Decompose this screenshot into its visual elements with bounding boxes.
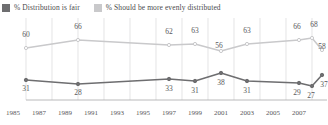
x-tick-1991: 1991 (84, 108, 98, 118)
value-label-dark-2007: 27 (307, 91, 315, 100)
value-label-dark-1990: 28 (74, 88, 82, 97)
x-tick-2005: 2005 (266, 108, 280, 118)
x-tick-2001: 2001 (214, 108, 228, 118)
value-label-light-2008: 58 (318, 42, 326, 51)
x-tick-1995: 1995 (136, 108, 150, 118)
value-label-light-1985: 60 (22, 30, 30, 39)
value-label-dark-2003: 31 (243, 86, 251, 95)
value-label-light-2007: 68 (310, 20, 318, 29)
legend-label-distribution-fair: % Distribution is fair (14, 4, 80, 12)
x-axis: 1985 1987 1989 1991 1993 1995 1997 1999 … (0, 108, 327, 122)
legend-item-distribution-fair: % Distribution is fair (2, 4, 80, 12)
x-tick-1989: 1989 (58, 108, 72, 118)
value-label-light-1990: 66 (74, 22, 82, 31)
x-tick-1987: 1987 (32, 108, 46, 118)
chart-legend: % Distribution is fair % Should be more … (2, 1, 327, 15)
series-line-more-evenly-distributed (26, 38, 322, 51)
value-label-light-2003: 63 (243, 26, 251, 35)
series-line-distribution-fair (26, 73, 322, 86)
x-tick-1985: 1985 (6, 108, 20, 118)
x-tick-2007: 2007 (292, 108, 306, 118)
value-label-dark-2000: 31 (191, 86, 199, 95)
value-label-dark-1998: 33 (165, 84, 173, 93)
value-label-dark-2005: 29 (293, 88, 301, 97)
x-tick-1999: 1999 (188, 108, 202, 118)
value-label-light-2005: 66 (293, 22, 301, 31)
legend-label-more-evenly-distributed: % Should be more evenly distributed (106, 4, 221, 12)
value-label-light-2001: 56 (215, 41, 223, 50)
value-label-dark-2008: 37 (320, 80, 328, 89)
legend-item-more-evenly-distributed: % Should be more evenly distributed (94, 4, 221, 12)
x-tick-2003: 2003 (240, 108, 254, 118)
value-label-light-2000: 63 (191, 26, 199, 35)
value-label-light-1998: 62 (165, 27, 173, 36)
plot-area: 60 66 62 63 56 63 66 68 58 31 28 33 31 3… (0, 18, 327, 107)
legend-swatch-light-icon (94, 4, 102, 12)
legend-swatch-dark-icon (2, 4, 10, 12)
x-tick-1997: 1997 (162, 108, 176, 118)
x-tick-1993: 1993 (110, 108, 124, 118)
value-label-dark-2001: 38 (217, 78, 225, 87)
value-label-dark-1985: 31 (22, 84, 30, 93)
